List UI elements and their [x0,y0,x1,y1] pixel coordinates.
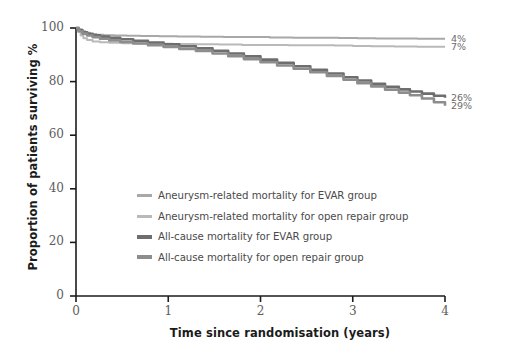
legend-item-label: All-cause mortality for EVAR group [158,231,332,242]
x-tick-label: 0 [64,304,88,318]
legend-line-swatch [137,215,152,218]
y-tick-label: 0 [30,288,64,302]
series-group [76,28,445,106]
y-tick-label: 20 [30,234,64,248]
x-tick-label: 4 [433,304,457,318]
legend-item: All-cause mortality for EVAR group [137,231,332,242]
legend-line-swatch [137,235,152,239]
legend-item-label: Aneurysm-related mortality for EVAR grou… [158,190,377,201]
series-end-label: 29% [451,100,472,111]
legend-line-swatch [137,194,152,197]
legend-item: All-cause mortality for open repair grou… [137,252,364,263]
series-line-0 [76,28,445,39]
plot-canvas [0,0,518,353]
x-tick-label: 3 [341,304,365,318]
y-tick-label: 60 [30,127,64,141]
legend-line-swatch [137,255,152,259]
survival-chart-figure: Proportion of patients surviving % Time … [0,0,518,353]
x-tick-label: 1 [156,304,180,318]
series-end-label: 7% [451,41,466,52]
x-tick-label: 2 [249,304,273,318]
y-tick-label: 80 [30,74,64,88]
y-tick-label: 40 [30,181,64,195]
legend-item-label: Aneurysm-related mortality for open repa… [158,211,408,222]
x-axis-title: Time since randomisation (years) [90,326,470,340]
legend-item: Aneurysm-related mortality for open repa… [137,211,408,222]
legend-item: Aneurysm-related mortality for EVAR grou… [137,190,377,201]
y-tick-label: 100 [30,20,64,34]
legend-item-label: All-cause mortality for open repair grou… [158,252,364,263]
